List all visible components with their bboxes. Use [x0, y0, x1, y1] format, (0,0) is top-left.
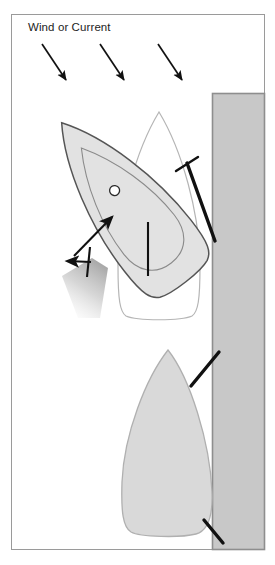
wind-arrow-left-icon: [42, 44, 66, 80]
diagram-canvas: Wind or Current: [0, 0, 275, 565]
wind-arrow-center-icon: [100, 44, 124, 80]
dock-surface: [213, 94, 265, 550]
dock: [213, 94, 265, 550]
wind-arrow-right-icon: [158, 44, 182, 80]
prop-wash-plume: [62, 258, 108, 318]
wind-arrow-group: [42, 44, 182, 80]
prop-wash-shape: [62, 258, 108, 318]
prop-wash-arrow-icon: [67, 261, 91, 262]
diagram-vector-layer: [0, 0, 275, 565]
